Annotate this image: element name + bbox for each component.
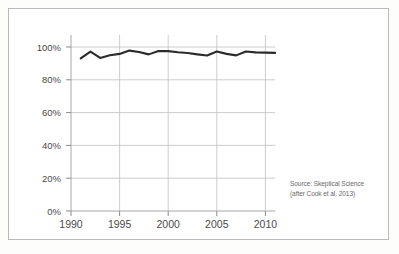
x-tick-label-1995: 1995 [108, 218, 132, 230]
x-tick-label-2005: 2005 [205, 218, 229, 230]
y-tick-label-100: 100% [37, 42, 62, 53]
vertical-gridlines [71, 35, 265, 211]
y-tick-label-80: 80% [42, 74, 62, 85]
x-tick-label-1990: 1990 [59, 218, 83, 230]
consensus-line-chart: 0% 20% 40% 60% 80% 100% 1990 1995 2000 2… [9, 9, 388, 239]
horizontal-gridlines [71, 47, 275, 211]
y-tick-label-60: 60% [42, 107, 62, 118]
consensus-data-line [81, 51, 275, 59]
source-credit-line-1: Source: Skeptical Science [290, 180, 365, 188]
chart-frame: 0% 20% 40% 60% 80% 100% 1990 1995 2000 2… [8, 8, 389, 240]
x-tick-label-2010: 2010 [254, 218, 278, 230]
y-tick-label-40: 40% [42, 140, 62, 151]
screenshot-root: 0% 20% 40% 60% 80% 100% 1990 1995 2000 2… [0, 0, 399, 254]
y-axis-ticks [66, 47, 71, 211]
y-tick-label-20: 20% [42, 173, 62, 184]
source-credit-line-2: (after Cook et al. 2013) [290, 190, 355, 198]
x-axis-ticks [71, 211, 265, 216]
x-tick-label-2000: 2000 [157, 218, 181, 230]
y-tick-label-0: 0% [47, 206, 61, 217]
